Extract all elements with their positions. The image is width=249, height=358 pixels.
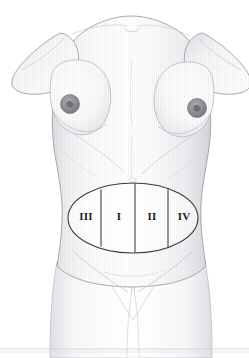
- zone-label-1[interactable]: I: [117, 210, 121, 222]
- figure-root: III I II IV: [0, 0, 249, 358]
- abdominal-zone-overlay[interactable]: III I II IV: [68, 183, 198, 253]
- zone-label-4[interactable]: IV: [178, 210, 191, 222]
- zone-label-3[interactable]: III: [79, 210, 92, 222]
- zone-label-2[interactable]: II: [148, 210, 157, 222]
- torso-illustration: III I II IV: [0, 0, 249, 358]
